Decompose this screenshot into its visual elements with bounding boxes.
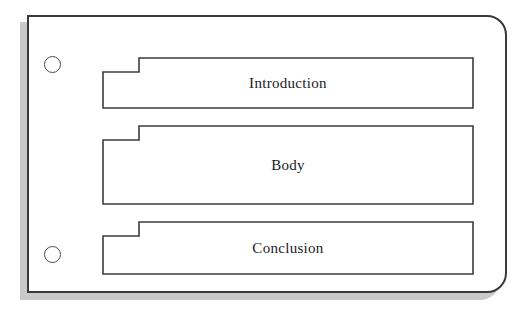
- tab-label-conclusion: Conclusion: [102, 240, 474, 257]
- tab-label-body: Body: [102, 157, 474, 174]
- binder-hole-icon-top: [44, 56, 61, 73]
- diagram-canvas: Introduction Body Conclusion: [0, 0, 521, 316]
- tab-shape-conclusion[interactable]: Conclusion: [102, 221, 474, 275]
- tab-shape-introduction[interactable]: Introduction: [102, 57, 474, 109]
- tab-label-introduction: Introduction: [102, 75, 474, 92]
- tab-shape-body[interactable]: Body: [102, 125, 474, 205]
- binder-hole-icon-bottom: [44, 246, 61, 263]
